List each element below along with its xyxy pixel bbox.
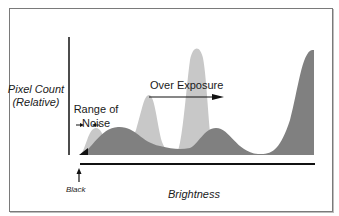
black-label: Black [66, 185, 86, 194]
y-axis-label-line1: Pixel Count [4, 83, 68, 96]
black-marker-arrowhead-icon [77, 168, 82, 174]
range-of-noise-line2: Noise [66, 116, 126, 130]
over-exposure-label: Over Exposure [150, 79, 223, 91]
over-exposure-arrowhead-icon [212, 94, 224, 100]
x-axis-label: Brightness [168, 188, 220, 200]
range-of-noise-label: Range of Noise [66, 102, 126, 130]
y-axis-label: Pixel Count (Relative) [4, 83, 68, 109]
y-axis-label-line2: (Relative) [4, 96, 68, 109]
black-point-wedge [79, 148, 88, 155]
range-of-noise-line1: Range of [66, 102, 126, 116]
